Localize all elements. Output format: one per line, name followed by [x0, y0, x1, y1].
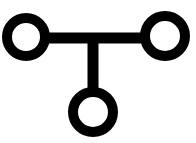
diagram-canvas	[0, 0, 196, 143]
node-graph-diagram	[0, 0, 196, 143]
